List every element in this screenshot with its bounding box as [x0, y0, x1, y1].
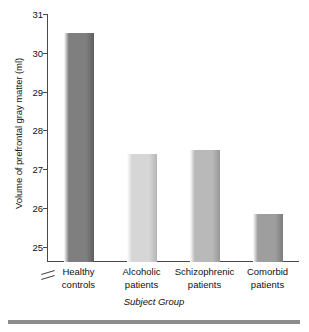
y-tick-label: 26	[32, 202, 43, 213]
bar-body	[127, 154, 157, 263]
y-tick-mark	[43, 53, 48, 54]
y-tick: 27	[47, 169, 48, 170]
y-tick-label: 29	[32, 86, 43, 97]
bar	[64, 33, 94, 262]
y-tick-label: 28	[32, 125, 43, 136]
bar-body	[253, 214, 283, 262]
y-tick-mark	[43, 208, 48, 209]
bar-body	[190, 150, 220, 262]
x-axis-title: Subject Group	[0, 296, 308, 307]
y-tick-label: 25	[32, 241, 43, 252]
x-category-label: Comorbidpatients	[222, 266, 309, 291]
y-tick: 26	[47, 208, 48, 209]
bottom-rule	[8, 320, 300, 324]
y-tick: 31	[47, 14, 48, 15]
y-tick: 28	[47, 130, 48, 131]
y-tick-mark	[43, 130, 48, 131]
y-tick-mark	[43, 247, 48, 248]
y-tick-label: 27	[32, 164, 43, 175]
y-tick: 30	[47, 53, 48, 54]
bar	[190, 150, 220, 262]
y-tick-mark	[43, 92, 48, 93]
y-axis-title: Volume of prefrontal gray matter (ml)	[13, 24, 24, 244]
y-tick-mark	[43, 169, 48, 170]
y-tick-label: 30	[32, 47, 43, 58]
y-tick-mark	[43, 14, 48, 15]
x-category-label-line: patients	[222, 279, 309, 292]
plot-area: 25262728293031	[47, 14, 299, 262]
y-tick-label: 31	[32, 9, 43, 20]
bar	[127, 154, 157, 263]
bar-body	[64, 33, 94, 262]
x-category-label-line: Comorbid	[222, 266, 309, 279]
bar-chart-figure: Volume of prefrontal gray matter (ml) 25…	[0, 0, 308, 332]
y-axis-line	[47, 14, 48, 262]
bar	[253, 214, 283, 262]
y-tick: 29	[47, 92, 48, 93]
y-tick: 25	[47, 247, 48, 248]
